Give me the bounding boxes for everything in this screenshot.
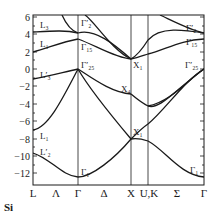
- svg-text:−2: −2: [19, 81, 30, 92]
- svg-text:X₁: X₁: [133, 60, 143, 70]
- svg-text:4: 4: [25, 29, 30, 40]
- band-sigma-extra: [148, 69, 204, 107]
- svg-text:L₁: L₁: [40, 131, 49, 141]
- svg-text:Γ: Γ: [75, 187, 81, 199]
- svg-text:X₁: X₁: [133, 127, 143, 137]
- svg-text:−6: −6: [19, 116, 30, 127]
- plot-frame: [33, 15, 204, 185]
- svg-text:2: 2: [25, 47, 30, 58]
- right-ticks: [200, 17, 204, 173]
- svg-text:L: L: [30, 187, 37, 199]
- svg-text:Γ₁₅: Γ₁₅: [81, 42, 92, 52]
- svg-text:Δ: Δ: [100, 187, 107, 199]
- svg-text:6: 6: [25, 12, 30, 23]
- svg-text:Γ′₂: Γ′₂: [81, 18, 91, 28]
- svg-text:Σ: Σ: [174, 187, 180, 199]
- band-gamma25-to-X1-steep: [78, 69, 131, 139]
- svg-text:L₁: L₁: [40, 39, 49, 49]
- svg-text:Γ₁: Γ₁: [81, 167, 89, 177]
- band-X1-U-cb2: [131, 40, 148, 59]
- svg-text:X: X: [127, 187, 135, 199]
- svg-text:Γ₁: Γ₁: [190, 165, 198, 175]
- svg-text:−12: −12: [14, 168, 30, 179]
- svg-text:Γ′₂: Γ′₂: [186, 23, 196, 33]
- svg-text:Γ′₂₅: Γ′₂₅: [185, 60, 198, 70]
- svg-text:0: 0: [25, 64, 30, 75]
- band-X4-U: [131, 94, 148, 106]
- kpoint-labels: L Λ Γ Δ X U,K Σ Γ: [30, 187, 208, 199]
- svg-text:L′₂: L′₂: [40, 147, 51, 157]
- band-X1-U-low: [131, 139, 148, 141]
- band-L3-to-gamma2p: [33, 31, 78, 33]
- left-ticks: [33, 17, 37, 173]
- svg-text:Γ′₂₅: Γ′₂₅: [81, 60, 94, 70]
- svg-text:Γ₁₅: Γ₁₅: [186, 37, 197, 47]
- material-label: Si: [4, 201, 13, 213]
- svg-text:Λ: Λ: [52, 187, 60, 199]
- svg-text:−10: −10: [14, 151, 30, 162]
- svg-text:L₃: L₃: [40, 20, 49, 30]
- y-tick-labels: 6 4 2 0 −2 −4 −6 −8 −10 −12: [14, 12, 30, 179]
- band-sigma-2: [148, 69, 204, 124]
- band-curves: [33, 15, 204, 177]
- svg-text:−8: −8: [19, 134, 30, 145]
- svg-text:Γ: Γ: [201, 187, 207, 199]
- svg-text:X₄: X₄: [121, 84, 131, 94]
- svg-text:−4: −4: [19, 99, 30, 110]
- band-upper-left: [62, 15, 78, 33]
- band-structure-figure: 6 4 2 0 −2 −4 −6 −8 −10 −12: [0, 0, 217, 220]
- svg-text:U,K: U,K: [140, 187, 159, 199]
- svg-text:L′₃: L′₃: [40, 70, 51, 80]
